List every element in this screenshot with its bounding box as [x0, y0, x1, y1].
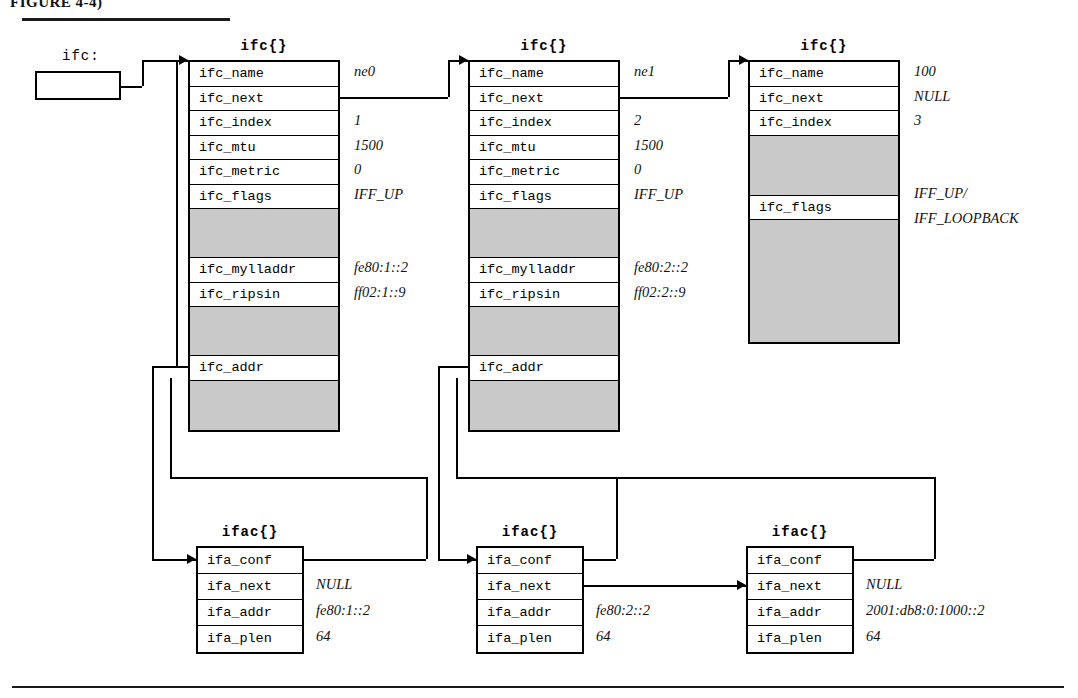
ifc-field-name: ifc_name [759, 67, 824, 81]
ifa-conf-backlink [304, 559, 426, 561]
ifa-conf-backlink [616, 477, 618, 559]
ifc-field-row: ifc_next [190, 87, 338, 112]
ifc-field-row: ifc_index [470, 111, 618, 136]
ifc-field-list: ifc_nameifc_nextifc_indexifc_mtuifc_metr… [468, 60, 620, 432]
ifc-field-row: ifc_ripsin [190, 283, 338, 308]
ifc-field-row: ifc_name [750, 62, 898, 87]
ifac-field-name: ifa_addr [207, 606, 272, 620]
ifc-field-value: IFF_UP [354, 186, 403, 203]
ifc-field-name: ifc_next [759, 92, 824, 106]
ifc-field-row: ifc_flags [470, 185, 618, 210]
ifc-field-name: ifc_name [479, 67, 544, 81]
ifac-field-row: ifa_next [748, 574, 852, 600]
ifc-field-value: ne0 [354, 63, 375, 80]
ifa-conf-backlink [170, 477, 426, 479]
ifa-next-arrowhead [737, 580, 746, 590]
ifa-conf-backlink [426, 477, 428, 559]
ifc-field-value: 2 [634, 112, 641, 129]
ifac-field-list: ifa_confifa_nextifa_addrifa_plen [476, 546, 584, 654]
ifac-field-name: ifa_next [757, 580, 822, 594]
figure-bottom-rule [12, 686, 1064, 688]
ifac-field-name: ifa_plen [487, 632, 552, 646]
ifc-addr-line [152, 366, 188, 368]
ifc-gap-row [470, 381, 618, 430]
ifc-next-line [728, 60, 730, 97]
ifc-field-list: ifc_nameifc_nextifc_indexifc_flags [748, 60, 900, 344]
ifa-conf-backlink [456, 477, 934, 479]
ifc-addr-line [438, 366, 468, 368]
ifa-conf-backlink [934, 477, 936, 559]
ifc-field-row: ifc_name [190, 62, 338, 87]
ifc-field-row: ifc_mtu [470, 136, 618, 161]
ifac-field-row: ifa_plen [748, 626, 852, 652]
ifc-field-name: ifc_flags [199, 190, 272, 204]
ifa-next-line [584, 585, 746, 587]
ifac-field-row: ifa_addr [748, 600, 852, 626]
ifc-next-line [448, 60, 450, 97]
ifac-field-row: ifa_addr [478, 600, 582, 626]
ifc-field-name: ifc_addr [199, 361, 264, 375]
ifac-field-row: ifa_conf [478, 548, 582, 574]
ifc-gap-row [750, 220, 898, 342]
ifc-gap-row [470, 209, 618, 258]
ifc-field-list: ifc_nameifc_nextifc_indexifc_mtuifc_metr… [188, 60, 340, 432]
ifc-field-name: ifc_next [479, 92, 544, 106]
ifac-field-row: ifa_conf [748, 548, 852, 574]
ifac-field-name: ifa_plen [207, 632, 272, 646]
ifc-field-value: 1500 [354, 137, 383, 154]
ifc-field-row: ifc_addr [470, 356, 618, 381]
ifac-field-row: ifa_next [478, 574, 582, 600]
ifc-field-row: ifc_flags [750, 196, 898, 221]
ifac-field-name: ifa_addr [487, 606, 552, 620]
ifac-field-value: 64 [596, 628, 611, 645]
ifc-field-name: ifc_mtu [199, 141, 256, 155]
ifac-field-name: ifa_next [487, 580, 552, 594]
ifac-struct-title: ifac{} [196, 524, 304, 540]
ifc-field-value: ff02:2::9 [634, 284, 686, 301]
ifc-field-name: ifc_flags [759, 201, 832, 215]
ifc-field-value: 1 [354, 112, 361, 129]
ifa-conf-backlink [584, 559, 616, 561]
ifc-addr-line [152, 366, 154, 559]
ifac-field-value: 64 [316, 628, 331, 645]
ifc-field-name: ifc_next [199, 92, 264, 106]
ifc-field-value: 0 [634, 161, 641, 178]
ifac-field-row: ifa_plen [198, 626, 302, 652]
ifac-field-name: ifa_conf [207, 554, 272, 568]
ifc-next-line [620, 97, 728, 99]
ifc-field-name: ifc_flags [479, 190, 552, 204]
ifc-field-name: ifc_addr [479, 361, 544, 375]
ifac-field-name: ifa_addr [757, 606, 822, 620]
ifac-field-row: ifa_plen [478, 626, 582, 652]
root-pointer-line [142, 60, 144, 86]
root-pointer-arrowhead [179, 55, 188, 65]
ifc-addr-line [438, 366, 440, 559]
ifc-field-row: ifc_addr [190, 356, 338, 381]
ifc-struct-title: ifc{} [188, 38, 340, 54]
ifc-gap-row [190, 307, 338, 356]
ifc-field-row: ifc_flags [190, 185, 338, 210]
ifac-field-row: ifa_addr [198, 600, 302, 626]
ifc-gap-row [190, 209, 338, 258]
ifc-addr-arrowhead [467, 554, 476, 564]
ifac-field-row: ifa_next [198, 574, 302, 600]
ifc-struct-title: ifc{} [468, 38, 620, 54]
ifa-conf-backlink [854, 559, 934, 561]
root-pointer-box [35, 71, 121, 100]
ifc-addr-arrowhead [187, 554, 196, 564]
ifc-field-row: ifc_metric [470, 160, 618, 185]
ifac-field-value: 64 [866, 628, 881, 645]
ifc-field-row: ifc_mtu [190, 136, 338, 161]
root-pointer-line [121, 86, 142, 88]
ifc-next-line [340, 97, 448, 99]
ifc-gap-row [190, 381, 338, 430]
ifac-field-name: ifa_conf [757, 554, 822, 568]
ifc-field-name: ifc_mylladdr [479, 263, 576, 277]
ifac-field-name: ifa_conf [487, 554, 552, 568]
ifc-field-name: ifc_ripsin [199, 288, 280, 302]
diagram-canvas: FIGURE 4-4) ifc: ifc{}ifc_nameifc_nextif… [0, 0, 1078, 698]
ifc-field-name: ifc_name [199, 67, 264, 81]
ifc-field-value: IFF_UP/ [914, 185, 967, 202]
ifc-field-name: ifc_metric [199, 165, 280, 179]
figure-caption: FIGURE 4-4) [10, 0, 103, 11]
